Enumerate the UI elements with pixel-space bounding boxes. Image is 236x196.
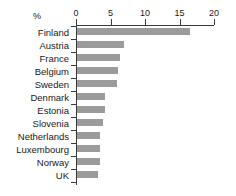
bar: [77, 93, 105, 100]
x-axis-tick: [76, 19, 77, 25]
x-axis-tick: [145, 19, 146, 25]
bar-row: Austria: [0, 39, 236, 52]
bar-row: Denmark: [0, 91, 236, 104]
axis-unit-label: %: [33, 11, 41, 21]
bar-row: Sweden: [0, 78, 236, 91]
y-axis-tick: [71, 182, 76, 183]
x-axis-tick-label: 5: [108, 8, 113, 18]
bar-row: France: [0, 52, 236, 65]
bar: [77, 171, 98, 178]
category-label: Estonia: [37, 105, 69, 116]
category-label: Norway: [37, 157, 69, 168]
x-axis-tick-label: 10: [140, 8, 150, 18]
bar-row: Netherlands: [0, 130, 236, 143]
bar: [77, 28, 190, 35]
category-label: Slovenia: [33, 118, 69, 129]
category-label: Denmark: [30, 92, 69, 103]
bar-chart: % 05101520 FinlandAustriaFranceBelgiumSw…: [0, 0, 236, 196]
x-axis-tick: [111, 19, 112, 25]
x-axis-tick-label: 20: [209, 8, 219, 18]
bar: [77, 106, 105, 113]
category-label: Netherlands: [18, 131, 69, 142]
bar: [77, 145, 100, 152]
category-label: Sweden: [35, 79, 69, 90]
bar-row: Estonia: [0, 104, 236, 117]
bar: [77, 158, 100, 165]
bar-row: Slovenia: [0, 117, 236, 130]
bar: [77, 41, 124, 48]
bar: [77, 132, 100, 139]
category-label: France: [39, 53, 69, 64]
bar-row: Finland: [0, 26, 236, 39]
bar-row: Norway: [0, 156, 236, 169]
category-label: Belgium: [35, 66, 69, 77]
x-axis-tick-label: 15: [174, 8, 184, 18]
category-label: UK: [56, 170, 69, 181]
bar-row: Belgium: [0, 65, 236, 78]
category-label: Austria: [39, 40, 69, 51]
bar-row: Luxembourg: [0, 143, 236, 156]
category-label: Luxembourg: [16, 144, 69, 155]
bar: [77, 67, 118, 74]
bar: [77, 119, 103, 126]
x-axis-tick: [214, 19, 215, 25]
bar: [77, 54, 120, 61]
x-axis-tick-label: 0: [73, 8, 78, 18]
bar: [77, 80, 117, 87]
bar-row: UK: [0, 169, 236, 182]
x-axis-tick: [180, 19, 181, 25]
category-label: Finland: [38, 27, 69, 38]
